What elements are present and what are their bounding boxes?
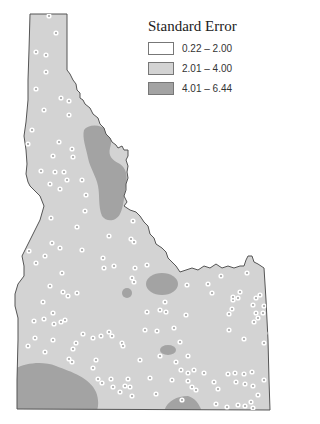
station-point bbox=[181, 399, 182, 400]
legend-title: Standard Error bbox=[148, 18, 284, 35]
station-point bbox=[101, 382, 102, 383]
station-point bbox=[191, 386, 192, 387]
station-point bbox=[146, 311, 147, 312]
station-point bbox=[100, 335, 101, 336]
station-point bbox=[243, 373, 244, 374]
station-point bbox=[207, 283, 208, 284]
station-point bbox=[263, 379, 264, 380]
station-point bbox=[35, 88, 36, 89]
station-point bbox=[129, 386, 130, 387]
station-point bbox=[193, 369, 194, 370]
high-error-zone-small-s bbox=[160, 345, 176, 355]
station-point bbox=[231, 308, 232, 309]
station-point bbox=[139, 359, 140, 360]
station-point bbox=[75, 342, 76, 343]
station-point bbox=[244, 383, 245, 384]
station-point bbox=[31, 129, 32, 130]
station-point bbox=[239, 291, 240, 292]
station-point bbox=[185, 314, 186, 315]
station-point bbox=[66, 179, 67, 180]
station-point bbox=[226, 406, 227, 407]
station-point bbox=[234, 372, 235, 373]
station-point bbox=[43, 109, 44, 110]
station-point bbox=[68, 114, 69, 115]
station-point bbox=[28, 250, 29, 251]
station-point bbox=[44, 255, 45, 256]
station-point bbox=[244, 405, 245, 406]
legend-label-high: 4.01 – 6.44 bbox=[182, 83, 232, 94]
station-point bbox=[95, 359, 96, 360]
station-point bbox=[113, 265, 114, 266]
station-point bbox=[232, 296, 233, 297]
station-point bbox=[215, 403, 216, 404]
station-point bbox=[27, 345, 28, 346]
legend-label-low: 0.22 – 2.00 bbox=[182, 43, 232, 54]
station-point bbox=[72, 348, 73, 349]
station-point bbox=[124, 385, 125, 386]
station-point bbox=[187, 355, 188, 356]
station-point bbox=[84, 210, 85, 211]
station-point bbox=[171, 379, 172, 380]
station-point bbox=[165, 311, 166, 312]
station-point bbox=[68, 358, 69, 359]
station-point bbox=[228, 313, 229, 314]
station-point bbox=[55, 32, 56, 33]
station-point bbox=[110, 378, 111, 379]
station-point bbox=[269, 332, 270, 333]
station-point bbox=[76, 292, 77, 293]
station-point bbox=[43, 318, 44, 319]
station-point bbox=[156, 330, 157, 331]
station-point bbox=[52, 339, 53, 340]
station-point bbox=[251, 371, 252, 372]
station-point bbox=[42, 301, 43, 302]
station-point bbox=[211, 292, 212, 293]
station-point bbox=[92, 367, 93, 368]
station-point bbox=[81, 249, 82, 250]
high-error-zone-small-ne bbox=[122, 288, 132, 298]
station-point bbox=[108, 331, 109, 332]
station-point bbox=[122, 345, 123, 346]
station-point bbox=[243, 338, 244, 339]
station-point bbox=[103, 267, 104, 268]
station-point bbox=[35, 262, 36, 263]
station-point bbox=[252, 407, 253, 408]
station-point bbox=[54, 171, 55, 172]
station-point bbox=[133, 281, 134, 282]
station-point bbox=[187, 380, 188, 381]
station-point bbox=[59, 247, 60, 248]
station-point bbox=[76, 226, 77, 227]
station-point bbox=[235, 381, 236, 382]
station-point bbox=[173, 327, 174, 328]
station-point bbox=[255, 312, 256, 313]
station-point bbox=[146, 264, 147, 265]
station-point bbox=[237, 297, 238, 298]
station-point bbox=[220, 275, 221, 276]
station-point bbox=[144, 329, 145, 330]
station-point bbox=[81, 179, 82, 180]
station-point bbox=[48, 15, 49, 16]
station-point bbox=[108, 235, 109, 236]
station-point bbox=[60, 321, 61, 322]
station-point bbox=[149, 377, 150, 378]
station-point bbox=[252, 385, 253, 386]
station-point bbox=[227, 373, 228, 374]
station-point bbox=[130, 238, 131, 239]
station-point bbox=[59, 188, 60, 189]
station-point bbox=[53, 323, 54, 324]
legend: Standard Error 0.22 – 2.00 2.01 – 4.00 4… bbox=[148, 18, 284, 99]
station-point bbox=[27, 143, 28, 144]
station-point bbox=[62, 291, 63, 292]
station-point bbox=[85, 194, 86, 195]
station-point bbox=[246, 272, 247, 273]
station-point bbox=[119, 391, 120, 392]
station-point bbox=[34, 337, 35, 338]
station-point bbox=[68, 100, 69, 101]
station-point bbox=[33, 320, 34, 321]
legend-swatch-low bbox=[148, 42, 174, 55]
station-point bbox=[49, 285, 50, 286]
station-point bbox=[159, 309, 160, 310]
station-point bbox=[228, 329, 229, 330]
station-point bbox=[60, 97, 61, 98]
station-point bbox=[263, 305, 264, 306]
station-point bbox=[180, 369, 181, 370]
